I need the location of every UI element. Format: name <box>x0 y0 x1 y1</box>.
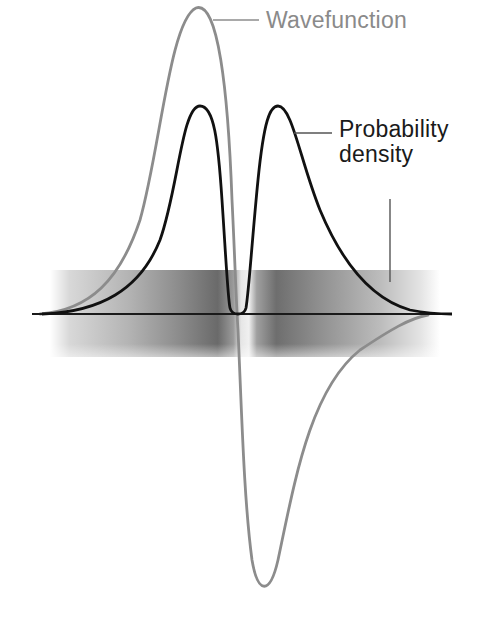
wavefunction-diagram: Wavefunction Probability density <box>0 0 481 622</box>
probability-density-label-line1: Probability <box>339 117 449 142</box>
probability-density-label-line2: density <box>339 142 449 167</box>
probability-density-label: Probability density <box>339 117 449 167</box>
wavefunction-label: Wavefunction <box>266 8 407 33</box>
diagram-canvas <box>0 0 481 622</box>
